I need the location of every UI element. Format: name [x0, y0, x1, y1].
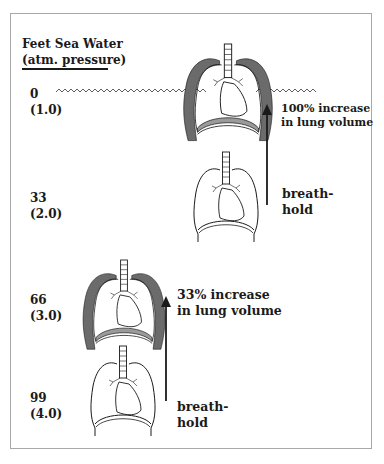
lungs-66ft-expanded [83, 260, 165, 349]
lungs-surface-expanded [184, 44, 273, 141]
diagram-graphics [0, 0, 384, 464]
lungs-99ft [91, 346, 155, 436]
water-surface-line [56, 89, 206, 92]
lungs-33ft [194, 152, 258, 242]
